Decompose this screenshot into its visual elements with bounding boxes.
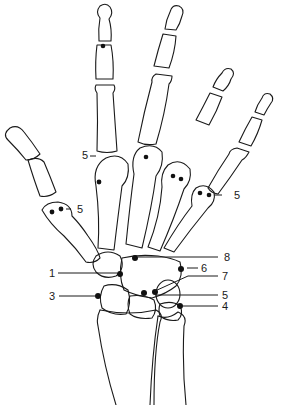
label-4: 4 xyxy=(222,301,228,312)
hand-skeleton-drawing xyxy=(0,0,281,405)
forearm-bones xyxy=(97,310,186,405)
label-5-index: 5 xyxy=(82,150,88,161)
label-5-ring: 5 xyxy=(234,190,240,201)
label-7: 7 xyxy=(222,271,228,282)
middle-finger xyxy=(95,4,117,152)
label-8: 8 xyxy=(224,252,230,263)
ring-finger xyxy=(138,6,183,145)
label-3: 3 xyxy=(49,291,55,302)
fourth-finger xyxy=(196,69,234,126)
marker-dots xyxy=(50,44,212,309)
label-1: 1 xyxy=(49,268,55,279)
metacarpals xyxy=(95,146,214,252)
label-6: 6 xyxy=(201,263,207,274)
label-5-thumb: 5 xyxy=(77,204,83,215)
thumb xyxy=(5,127,100,263)
carpals xyxy=(93,252,182,321)
leader-lines xyxy=(58,156,222,306)
